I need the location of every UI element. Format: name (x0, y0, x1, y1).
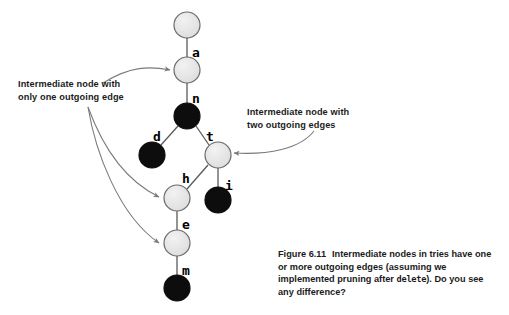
figure-caption: Figure 6.11Intermediate nodes in tries h… (278, 248, 496, 298)
edge-label-h: h (182, 171, 190, 186)
annotation-two-outgoing-edges: Intermediate node with two outgoing edge… (247, 106, 397, 131)
edge-label-e: e (182, 217, 190, 232)
node-a (174, 57, 200, 83)
figure-caption-label: Figure 6.11 (278, 249, 326, 259)
edge-t-h (187, 165, 208, 189)
node-d (139, 142, 165, 168)
trie-nodes (139, 12, 231, 301)
edge-label-n: n (192, 91, 200, 106)
figure-caption-code: delete (396, 274, 426, 284)
edge-label-d: d (153, 129, 161, 144)
edge-n-d (161, 126, 178, 145)
leader-line-to-t-node (234, 131, 314, 153)
leader-line-to-e-node (88, 107, 159, 243)
node-h (164, 185, 190, 211)
node-t (205, 142, 231, 168)
node-m (164, 275, 190, 301)
edge-label-t: t (206, 129, 214, 144)
node-e (164, 230, 190, 256)
edge-label-m: m (182, 263, 190, 278)
node-root (174, 12, 200, 38)
edge-label-i: i (225, 178, 233, 193)
node-n (174, 103, 200, 129)
edge-label-a: a (192, 45, 200, 60)
annotation-one-outgoing-edge: Intermediate node with only one outgoing… (18, 78, 158, 103)
figure-container: a n d t h i e m Intermediate node with o… (0, 0, 509, 315)
